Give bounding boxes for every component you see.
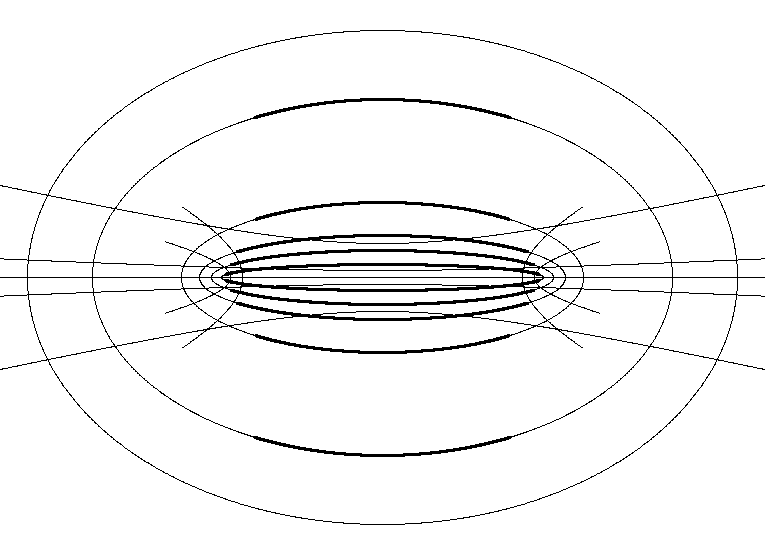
conic-plot-canvas (0, 0, 765, 541)
confocal-conics-figure: Confocal conic sections A family of conf… (0, 0, 765, 541)
